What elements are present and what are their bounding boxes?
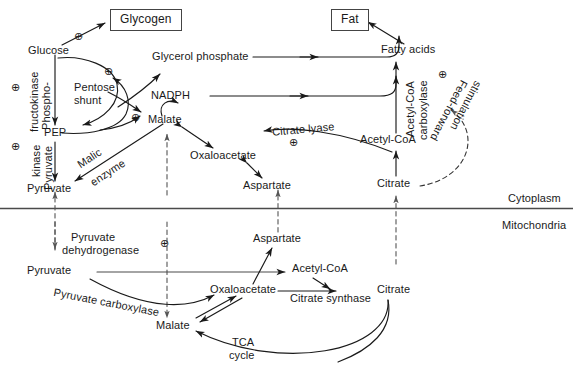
enzyme-pyruvate-dehydrogenase-line1: Pyruvate <box>71 231 115 243</box>
node-aspartate-mitochondria: Aspartate <box>253 232 301 244</box>
enzyme-pyruvate-kinase-line1: Pyruvate <box>42 146 54 190</box>
compartment-label-cytoplasm: Cytoplasm <box>508 192 561 204</box>
activation-marker-malic-enzyme: ⊕ <box>131 112 140 123</box>
node-fat: Fat <box>331 9 369 31</box>
enzyme-acetyl-coa-carboxylase-line2: carboxylase <box>417 80 429 140</box>
node-pyruvate-mitochondria: Pyruvate <box>27 264 71 276</box>
compartment-label-mitochondria: Mitochondria <box>502 219 566 231</box>
enzyme-pyruvate-dehydrogenase-line2: dehydrogenase <box>62 244 139 256</box>
node-fatty-acids: Fatty acids <box>381 43 435 55</box>
node-glycogen: Glycogen <box>110 9 182 31</box>
enzyme-phosphofructokinase-line1: Phospho- <box>40 82 52 130</box>
node-citrate-mitochondria: Citrate <box>377 283 410 295</box>
node-malate-mitochondria: Malate <box>156 319 190 331</box>
enzyme-citrate-synthase: Citrate synthase <box>290 292 371 304</box>
annotation-tca-cycle-line1: TCA <box>232 336 254 348</box>
activation-marker-phosphofructokinase: ⊕ <box>11 82 20 93</box>
activation-marker-pyruvate-kinase: ⊕ <box>11 141 20 152</box>
node-oxaloacetate-cytoplasm: Oxaloacetate <box>190 149 256 161</box>
node-citrate-cytoplasm: Citrate <box>377 177 410 189</box>
pathway-diagram: Glycogen Fat Glucose PEP Pyruvate Pentos… <box>0 0 573 381</box>
node-oxaloacetate-mitochondria: Oxaloacetate <box>210 283 276 295</box>
node-pentose-shunt-line1: Pentose <box>74 81 115 93</box>
node-glycerol-phosphate: Glycerol phosphate <box>152 50 249 62</box>
node-acetyl-coa-mitochondria: Acetyl-CoA <box>292 262 348 274</box>
annotation-tca-cycle-line2: cycle <box>229 349 255 361</box>
activation-marker-acetyl-coa-carboxylase: ⊕ <box>438 69 447 80</box>
node-glucose: Glucose <box>28 44 69 56</box>
activation-marker-glycogen-synthesis: ⊕ <box>74 31 83 42</box>
enzyme-phosphofructokinase-line2: fructokinase <box>28 71 40 132</box>
enzyme-pyruvate-kinase-line2: kinase <box>30 145 42 177</box>
node-aspartate-cytoplasm: Aspartate <box>243 179 291 191</box>
activation-marker-pentose-shunt: ⊕ <box>104 66 113 77</box>
activation-marker-pyruvate-dehydrogenase: ⊕ <box>160 238 169 249</box>
node-pentose-shunt-line2: shunt <box>74 94 101 106</box>
enzyme-acetyl-coa-carboxylase-line1: Acetyl-CoA <box>404 81 416 137</box>
node-malate-cytoplasm: Malate <box>148 113 182 125</box>
activation-marker-citrate-lyase: ⊕ <box>289 137 298 148</box>
node-nadph: NADPH <box>151 89 190 101</box>
